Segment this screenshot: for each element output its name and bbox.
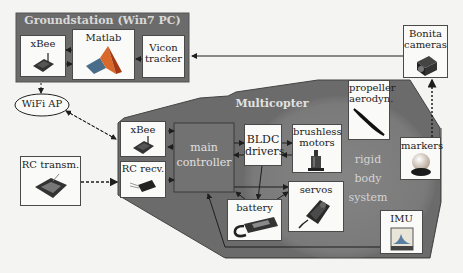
main-controller-line2: controller [174,155,234,170]
rc-receiver-label: RC recv. [121,163,165,174]
rigid-body-line2: body [346,169,390,188]
cameras-label-line1: Bonita [404,28,447,39]
matlab-box: Matlab [72,29,135,80]
markers-label: markers [401,140,440,151]
rc-transmitter-label: RC transm. [21,159,80,170]
rigid-body-line3: system [346,188,390,207]
camera-icon [413,52,439,76]
rigid-body-system-label: rigid body system [346,150,390,207]
multicopter-xbee-label: xBee [121,124,165,135]
groundstation-xbee-label: xBee [21,38,65,49]
main-controller-line1: main [174,140,234,155]
imu-box: IMU [380,210,423,254]
propeller-box: propeller aerodyn. [348,80,390,140]
imu-chart-icon [389,226,415,252]
rc-receiver-icon [128,177,158,195]
markers-box: markers [400,137,441,180]
bldc-label-line2: drivers [245,146,281,158]
propeller-label-line1: propeller [349,82,389,93]
servo-icon [296,196,336,230]
bonita-cameras-box: Bonita cameras [403,25,448,78]
rc-receiver-box: RC recv. [120,161,166,198]
multicopter-xbee-box: xBee [120,121,166,157]
wifi-ap-label: WiFi AP [15,98,69,109]
imu-label: IMU [381,213,422,224]
propeller-label-line2: aerodyn. [349,93,389,104]
main-controller: main controller [174,140,234,170]
bldc-drivers-box: BLDC drivers [244,124,282,166]
propeller-icon [351,106,387,138]
brushless-motors-box: brushless motors [292,124,342,173]
servos-box: servos [288,181,344,232]
groundstation-xbee-box: xBee [20,35,66,77]
motors-label-line1: brushless [293,126,341,137]
battery-box: battery [227,199,282,241]
battery-label: battery [228,202,281,213]
vicon-label-line1: Vicon [143,42,184,53]
cameras-label-line2: cameras [404,39,447,50]
xbee-module-icon [130,135,156,155]
servos-label: servos [289,184,343,195]
marker-ball-icon [408,152,434,178]
motor-icon [307,149,327,173]
groundstation-title: Groundstation (Win7 PC) [16,14,189,27]
multicopter-title: Multicopter [230,97,314,110]
rc-transmitter-icon [31,173,71,203]
motors-label-line2: motors [293,137,341,148]
vicon-tracker-box: Vicon tracker [142,35,185,78]
matlab-logo-icon [84,44,124,78]
xbee-module-icon [30,52,56,74]
rigid-body-line1: rigid [346,150,390,169]
rc-transmitter-box: RC transm. [20,156,81,206]
vicon-label-line2: tracker [143,53,184,64]
battery-icon [230,214,280,240]
matlab-label: Matlab [73,32,134,43]
